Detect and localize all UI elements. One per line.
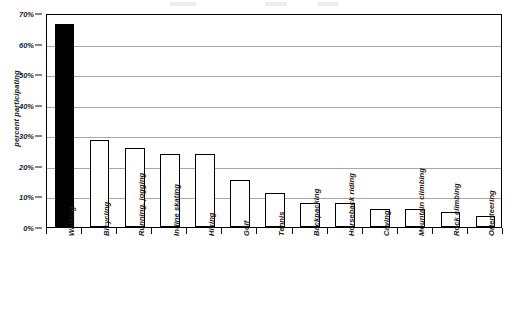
x-axis-tick-marks: [46, 228, 502, 235]
x-axis-category-label: Orienteering: [487, 190, 496, 236]
x-axis-category-label: Hiking: [207, 212, 216, 236]
y-axis-tick-labels: 0%10%20%30%40%50%60%70%: [0, 0, 44, 315]
x-axis-category-label: Walking: [67, 207, 76, 236]
x-axis-tick-mark: [432, 228, 433, 234]
y-axis-tick-mark: [35, 105, 42, 106]
x-axis-tick-mark: [502, 228, 503, 234]
x-axis-category-label: In-line skating: [172, 184, 181, 236]
x-axis-tick-mark: [151, 228, 152, 234]
x-axis-category-label: Rock climbing: [452, 183, 461, 236]
x-axis-tick-mark: [256, 228, 257, 234]
y-axis-tick-mark: [35, 75, 42, 76]
y-axis-tick-mark: [35, 136, 42, 137]
bar-chart: percent participating 0%10%20%30%40%50%6…: [0, 0, 515, 315]
y-axis-tick-label: 20%: [19, 162, 34, 171]
x-axis-category-label: Horseback riding: [347, 173, 356, 236]
x-axis-category-label: Caving: [382, 210, 391, 236]
y-axis-tick-mark: [35, 166, 42, 167]
x-axis-tick-mark: [221, 228, 222, 234]
scan-artifact: [318, 2, 338, 6]
x-axis-category-label: Golf: [242, 221, 251, 236]
y-axis-tick-label: 40%: [19, 101, 34, 110]
x-axis-tick-mark: [327, 228, 328, 234]
x-axis-category-labels: WalkingBicyclingRunning, joggingIn-line …: [46, 236, 502, 315]
bar-series: [47, 15, 501, 227]
y-axis-tick-label: 70%: [19, 10, 34, 19]
x-axis-category-label: Bicycling: [102, 202, 111, 236]
y-axis-tick-mark: [35, 228, 42, 229]
y-axis-tick-mark: [35, 14, 42, 15]
x-axis-category-label: Tennis: [277, 212, 286, 237]
x-axis-tick-mark: [116, 228, 117, 234]
x-axis-tick-mark: [467, 228, 468, 234]
x-axis-tick-mark: [362, 228, 363, 234]
x-axis-tick-mark: [81, 228, 82, 234]
y-axis-tick-label: 50%: [19, 71, 34, 80]
y-axis-tick-label: 30%: [19, 132, 34, 141]
bar: [55, 24, 75, 227]
x-axis-category-label: Backpacking: [312, 189, 321, 236]
x-axis-tick-mark: [397, 228, 398, 234]
x-axis-category-label: Mountain climbing: [417, 168, 426, 236]
y-axis-tick-label: 0%: [23, 224, 34, 233]
x-axis-tick-mark: [292, 228, 293, 234]
scan-artifact: [170, 2, 196, 6]
y-axis-tick-mark: [35, 197, 42, 198]
scan-artifact: [265, 2, 287, 6]
plot-area: [46, 14, 502, 228]
x-axis-tick-mark: [186, 228, 187, 234]
x-axis-category-label: Running, jogging: [137, 173, 146, 236]
y-axis-tick-label: 60%: [19, 40, 34, 49]
y-axis-tick-label: 10%: [19, 193, 34, 202]
x-axis-tick-mark: [46, 228, 47, 234]
y-axis-tick-mark: [35, 44, 42, 45]
